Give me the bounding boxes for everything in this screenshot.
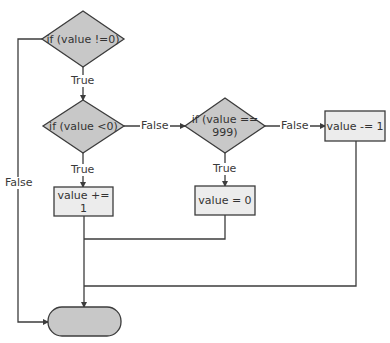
process-zero-label: value = 0 [195, 186, 255, 215]
edge-label-d2-false: False [140, 120, 170, 132]
edge-label-d3-false: False [280, 120, 310, 132]
decision-1-label: if (value !=0) [42, 32, 124, 46]
edge-label-d1-true: True [70, 75, 95, 87]
flowchart-diagram: if (value !=0) if (value <0) if (value =… [0, 0, 390, 343]
process-decrement-label: value -= 1 [325, 111, 385, 141]
decision-2-label: if (value <0) [43, 119, 124, 133]
edge-label-d3-true: True [212, 163, 237, 175]
edge-label-d2-true: True [70, 164, 95, 176]
edge-label-d1-false: False [4, 177, 34, 189]
decision-3-label-line2: 999) [185, 126, 265, 139]
terminal-label [48, 307, 121, 336]
flowchart-connectors [0, 0, 390, 343]
edge-zero-merge [84, 215, 225, 239]
process-increment-label: value += 1 [54, 187, 113, 216]
decision-3-label-line1: if (value == [185, 113, 265, 126]
